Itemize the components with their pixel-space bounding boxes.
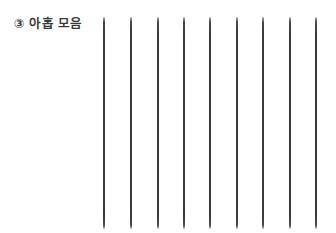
stroke-line bbox=[289, 17, 291, 229]
stroke-line bbox=[315, 17, 317, 229]
stroke-line bbox=[236, 17, 238, 229]
stroke-line bbox=[130, 17, 132, 229]
stroke-practice-field bbox=[96, 0, 336, 233]
prompt-label: ③ 아홉 모음 bbox=[14, 14, 96, 34]
worksheet-canvas: ③ 아홉 모음 bbox=[0, 0, 336, 233]
stroke-line bbox=[262, 17, 264, 229]
stroke-line bbox=[183, 17, 185, 229]
stroke-line bbox=[209, 17, 211, 229]
stroke-line bbox=[157, 17, 159, 229]
stroke-line bbox=[103, 17, 105, 229]
